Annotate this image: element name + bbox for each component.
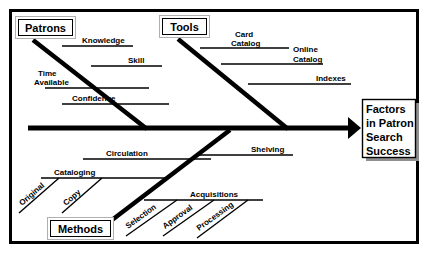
- bone-label-shelving: Shelving: [251, 145, 284, 154]
- bone-label-acquisitions: Acquisitions: [190, 190, 239, 199]
- effect-label-line4: Success: [366, 145, 411, 157]
- effect-box[interactable]: Factors in Patron Search Success: [363, 100, 420, 162]
- bone-label-skill: Skill: [128, 56, 144, 65]
- bone-label-time-available-line2: Available: [34, 78, 69, 87]
- category-label-patrons: Patrons: [25, 22, 66, 34]
- bone-label-card-catalog-line1: Card: [235, 30, 253, 39]
- effect-label-line2: in Patron: [366, 117, 414, 129]
- bone-label-time-available-line1: Time: [38, 69, 57, 78]
- category-box-patrons[interactable]: Patrons: [16, 17, 76, 39]
- bone-label-confidence: Confidence: [72, 94, 116, 103]
- category-box-tools[interactable]: Tools: [160, 16, 210, 38]
- bone-label-circulation: Circulation: [106, 149, 148, 158]
- bone-label-indexes: Indexes: [316, 74, 346, 83]
- fishbone-diagram-page: Knowledge Skill Time Available Confidenc…: [0, 0, 435, 259]
- bone-label-cataloging: Cataloging: [54, 168, 95, 177]
- bone-label-knowledge: Knowledge: [82, 36, 125, 45]
- effect-label-line1: Factors: [366, 103, 406, 115]
- bone-label-online-catalog-line1: Online: [293, 45, 318, 54]
- bone-label-card-catalog-line2: Catalog: [231, 39, 260, 48]
- bone-label-online-catalog-line2: Catalog: [293, 55, 322, 64]
- category-box-methods[interactable]: Methods: [48, 218, 114, 240]
- category-label-tools: Tools: [170, 21, 199, 33]
- effect-label-line3: Search: [366, 131, 403, 143]
- fishbone-diagram-canvas: Knowledge Skill Time Available Confidenc…: [0, 0, 435, 259]
- category-label-methods: Methods: [58, 223, 103, 235]
